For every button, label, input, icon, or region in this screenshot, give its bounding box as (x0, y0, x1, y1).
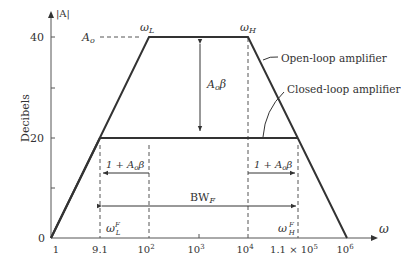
x-axis-arrow-icon (371, 235, 378, 241)
omega-lf-label: ωFL (106, 221, 121, 237)
y-axis (48, 11, 55, 238)
y-axis-symbol: |A| (56, 8, 70, 20)
open-loop-label: Open-loop amplifier (281, 52, 388, 64)
x-axis-symbol: ω (379, 222, 389, 236)
bode-diagram: |A| 40 20 0 Decibels 1 9.1 102 103 104 1… (0, 0, 401, 264)
bandwidth-label: BWF (190, 191, 215, 205)
left-gain-label: 1 + Aoβ (106, 159, 145, 172)
y-axis-title: Decibels (19, 94, 32, 142)
y-tick-40: 40 (30, 31, 44, 44)
closed-loop-curve (51, 138, 298, 238)
open-loop-leader (263, 57, 278, 60)
closed-loop-label: Closed-loop amplifier (287, 83, 401, 95)
x-tick-100: 102 (137, 243, 154, 255)
x-tick-1000: 103 (187, 243, 204, 255)
right-gain-label: 1 + Aoβ (254, 159, 293, 172)
omega-hf-label: ωFH (278, 221, 296, 237)
x-tick-10000: 104 (236, 243, 254, 255)
omega-l-label: ωL (140, 21, 154, 35)
omega-h-label: ωH (240, 21, 257, 35)
y-tick-0: 0 (38, 232, 45, 245)
x-tick-110000: 1.1 × 105 (270, 243, 318, 255)
aob-label: Aoβ (206, 78, 226, 92)
closed-loop-leader (263, 92, 284, 137)
x-tick-1000000: 106 (336, 243, 354, 255)
y-tick-20: 20 (30, 132, 44, 145)
x-tick-9-1: 9.1 (92, 244, 108, 255)
ao-label: Ao (81, 31, 95, 45)
y-axis-arrow-icon (48, 11, 54, 18)
x-tick-1: 1 (53, 244, 59, 255)
